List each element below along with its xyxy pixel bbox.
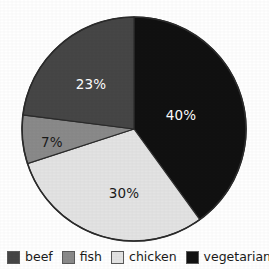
pie-plot-area: 40%30%7%23%	[0, 0, 269, 243]
legend-swatch-beef	[7, 251, 20, 264]
legend-swatch-fish	[62, 251, 75, 264]
legend-label-vegetarian: vegetarian	[204, 251, 269, 264]
pie-data-label-vegetarian: 40%	[166, 107, 197, 123]
legend-item-fish[interactable]: fish	[62, 251, 102, 264]
pie-slice-beef[interactable]	[23, 17, 134, 129]
legend-label-fish: fish	[80, 251, 102, 264]
legend-swatch-vegetarian	[186, 251, 199, 264]
legend-item-beef[interactable]: beef	[7, 251, 53, 264]
pie-data-label-beef: 23%	[76, 76, 107, 92]
pie-data-label-chicken: 30%	[109, 185, 140, 201]
chart-legend: beeffishchickenvegetarian	[0, 246, 269, 269]
legend-label-chicken: chicken	[129, 251, 177, 264]
legend-label-beef: beef	[25, 251, 53, 264]
pie-svg: 40%30%7%23%	[0, 0, 269, 243]
pie-chart: 40%30%7%23% beeffishchickenvegetarian	[0, 0, 269, 269]
pie-slice-group	[22, 17, 246, 241]
pie-data-label-fish: 7%	[41, 134, 63, 150]
legend-swatch-chicken	[111, 251, 124, 264]
legend-item-chicken[interactable]: chicken	[111, 251, 177, 264]
legend-item-vegetarian[interactable]: vegetarian	[186, 251, 269, 264]
